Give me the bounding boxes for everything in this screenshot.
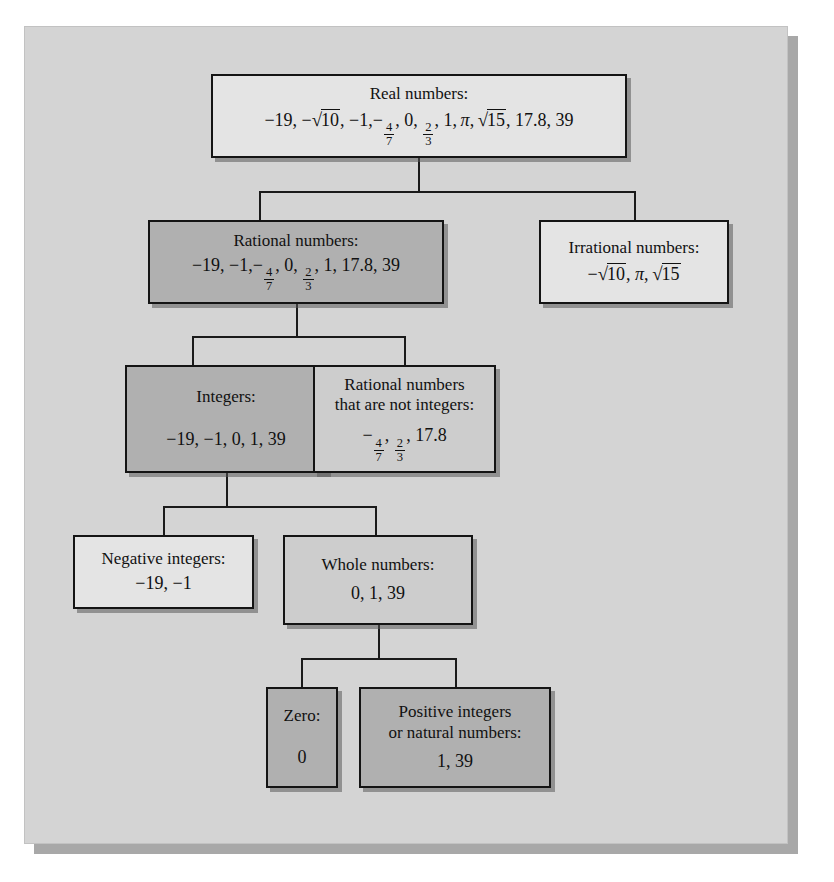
node-rational-numbers-title: Rational numbers: [233,231,358,252]
node-integers-title: Integers: [196,387,255,408]
node-zero-values: 0 [298,747,307,769]
node-real-numbers-values: −19, −√10, −1,−47, 0, 23, 1, π, √15, 17.… [264,108,573,148]
node-positive-integers-values: 1, 39 [437,751,473,773]
connector-level1-bar [260,191,635,193]
connector-to-negative-integers [163,506,165,535]
connector-to-irrational [634,191,636,220]
node-irrational-numbers-title: Irrational numbers: [569,238,700,259]
node-positive-integers-title-line1: Positive integers [399,702,512,723]
connector-to-positive-integers [455,658,457,687]
node-integers[interactable]: Integers: −19, −1, 0, 1, 39 [125,365,327,473]
node-negative-integers-values: −19, −1 [135,573,191,595]
node-rational-numbers-values: −19, −1,−47, 0, 23, 1, 17.8, 39 [192,255,400,293]
connector-level3-bar [164,506,376,508]
figure-stage: Real numbers: −19, −√10, −1,−47, 0, 23, … [0,0,834,882]
node-negative-integers-title: Negative integers: [101,549,225,570]
node-irrational-numbers-values: −√10, π, √15 [587,262,680,286]
node-positive-integers-title-line2: or natural numbers: [388,723,521,744]
connector-integers-down [226,473,228,507]
node-positive-integers[interactable]: Positive integers or natural numbers: 1,… [359,687,551,788]
classification-tree-diagram: Real numbers: −19, −√10, −1,−47, 0, 23, … [0,0,834,882]
node-rational-not-integers-values: −47, 23, 17.8 [362,425,446,463]
node-integers-values: −19, −1, 0, 1, 39 [166,429,285,451]
node-whole-numbers-values: 0, 1, 39 [351,583,405,605]
connector-rational-down [296,303,298,337]
node-rational-not-integers-title-line1: Rational numbers [344,375,464,396]
node-rational-numbers[interactable]: Rational numbers: −19, −1,−47, 0, 23, 1,… [148,220,444,304]
connector-whole-down [378,625,380,659]
node-real-numbers-title: Real numbers: [370,84,469,105]
connector-to-rational [259,191,261,220]
node-rational-not-integers[interactable]: Rational numbers that are not integers: … [313,365,496,473]
connector-to-integers [192,336,194,365]
connector-to-rational-not-integers [404,336,406,365]
node-real-numbers[interactable]: Real numbers: −19, −√10, −1,−47, 0, 23, … [211,74,627,158]
node-whole-numbers[interactable]: Whole numbers: 0, 1, 39 [283,535,473,625]
node-irrational-numbers[interactable]: Irrational numbers: −√10, π, √15 [539,220,729,304]
connector-real-down [418,158,420,192]
connector-level4-bar [302,658,456,660]
connector-level2-bar [193,336,405,338]
connector-to-whole [375,506,377,535]
node-negative-integers[interactable]: Negative integers: −19, −1 [73,535,254,609]
node-rational-not-integers-title-line2: that are not integers: [335,395,474,416]
node-zero[interactable]: Zero: 0 [266,687,338,788]
node-zero-title: Zero: [284,706,321,727]
node-whole-numbers-title: Whole numbers: [322,555,435,576]
connector-to-zero [301,658,303,687]
